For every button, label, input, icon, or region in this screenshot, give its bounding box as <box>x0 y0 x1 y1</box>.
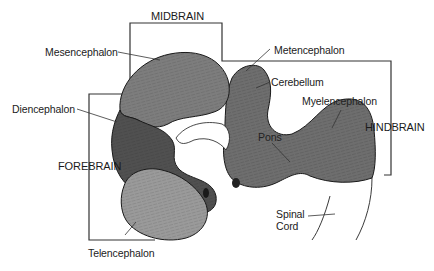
diencephalon-label: Diencephalon <box>12 103 75 115</box>
telencephalon-label: Telencephalon <box>88 247 154 259</box>
leader-diencephalon <box>77 109 117 122</box>
leader-spinal-cord <box>308 214 335 216</box>
leader-mesencephalon <box>118 52 160 60</box>
pons-label: Pons <box>258 131 282 143</box>
brain-illustration <box>0 0 434 271</box>
spinal-cord-label-line1: Spinal <box>276 208 305 220</box>
cerebellum-label: Cerebellum <box>271 76 324 88</box>
myelencephalon-label: Myelencephalon <box>302 95 377 107</box>
brain-diagram: MIDBRAIN HINDBRAIN FOREBRAIN Mesencephal… <box>0 0 434 271</box>
forebrain-label: FOREBRAIN <box>58 160 121 172</box>
hindbrain-label: HINDBRAIN <box>365 121 425 133</box>
spinal-cord-label-line2: Cord <box>276 220 298 232</box>
ventricle-gap <box>176 123 229 150</box>
midbrain-label: MIDBRAIN <box>151 10 204 22</box>
mesencephalon-label: Mesencephalon <box>45 46 118 58</box>
metencephalon-label: Metencephalon <box>274 44 345 56</box>
mesencephalon-shape <box>120 52 229 127</box>
